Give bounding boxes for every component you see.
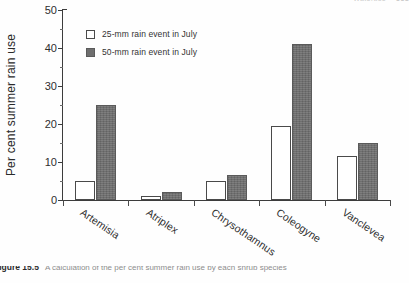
bar (292, 44, 312, 200)
bar (271, 126, 291, 200)
y-axis-tick-label: 10 (45, 156, 57, 168)
bar-group (325, 10, 390, 200)
legend-item-label: 50-mm rain event in July (102, 47, 197, 57)
scanned-page: Wateruse 331 Per cent summer rain use 01… (0, 0, 409, 283)
figure-caption: Figure 15.5 A calculation of the per cen… (0, 266, 409, 283)
x-axis-category-label: Vanclevea (340, 206, 387, 243)
y-axis-tick-label: 20 (45, 118, 57, 130)
y-axis-title: Per cent summer rain use (4, 34, 18, 176)
bar (96, 105, 116, 200)
bar-group (259, 10, 324, 200)
x-axis-category-label: Atriplex (144, 206, 180, 236)
y-axis-tick-label: 50 (45, 4, 57, 16)
figure-caption-label: Figure 15.5 (0, 266, 39, 272)
x-axis-group-tick (194, 200, 195, 206)
y-axis-tick-label: 30 (45, 80, 57, 92)
y-axis-tick-label: 0 (51, 194, 57, 206)
x-axis-group-tick (390, 200, 391, 206)
legend-swatch-open-icon (86, 30, 95, 39)
x-axis-group-tick (63, 200, 64, 206)
y-axis-tick-label: 40 (45, 42, 57, 54)
bar (162, 192, 182, 200)
x-axis-line (62, 200, 391, 201)
legend-item-label: 25-mm rain event in July (102, 29, 197, 39)
bar (75, 181, 95, 200)
bar (227, 175, 247, 200)
figure-caption-text: A calculation of the per cent summer rai… (45, 266, 287, 272)
x-axis-category-label: Coleogyne (275, 206, 324, 245)
legend-swatch-filled-icon (86, 48, 95, 57)
figure-15-5-chart: Per cent summer rain use 01020304050 Art… (0, 0, 409, 262)
bar (206, 181, 226, 200)
chart-legend: 25-mm rain event in July 50-mm rain even… (86, 29, 197, 57)
x-axis-category-label: Artemisia (79, 206, 123, 241)
x-axis-group-tick (259, 200, 260, 206)
legend-item: 50-mm rain event in July (86, 47, 197, 57)
x-axis-category-label: Chrysothamnus (209, 206, 278, 258)
bar (141, 196, 161, 200)
bar (337, 156, 357, 200)
x-axis-group-tick (325, 200, 326, 206)
bar-group (194, 10, 259, 200)
x-axis-group-tick (128, 200, 129, 206)
bar (358, 143, 378, 200)
legend-item: 25-mm rain event in July (86, 29, 197, 39)
